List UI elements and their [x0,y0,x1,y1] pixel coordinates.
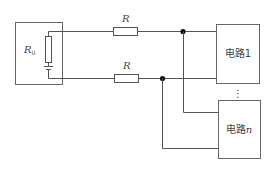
top-line-resistor [114,28,138,36]
bottom-branch-wire [163,79,219,149]
circuit-diagram: R0 R R 电路1 ⋮ 电路n [0,0,274,169]
internal-resistor [46,37,52,63]
bottom-line-resistor-label: R [122,60,131,71]
top-line-resistor-label: R [121,13,130,24]
ellipsis: ⋮ [233,88,243,99]
bottom-line-resistor [115,75,139,83]
load-label-n: 电路n [226,123,252,135]
top-branch-wire [184,32,219,113]
load-label-1: 电路1 [225,47,251,59]
